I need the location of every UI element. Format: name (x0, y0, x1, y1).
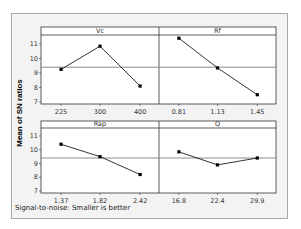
y-tick-label: 9 (34, 160, 38, 168)
x-tick-label: 400 (134, 108, 146, 116)
panel-row-0 (41, 27, 276, 104)
data-point (59, 68, 62, 71)
x-tick-label: 2.42 (133, 197, 147, 205)
data-point (256, 156, 259, 159)
y-tick-label: 7 (34, 187, 38, 195)
panel-title: Rf (214, 27, 222, 35)
y-tick-label: 9 (34, 69, 38, 77)
y-tick-label: 7 (34, 98, 38, 106)
x-tick-label: 1.13 (210, 108, 224, 116)
footnote: Signal-to-noise: Smaller is better (15, 204, 130, 212)
main-effects-chart: 78910117891011Vc225300400Rf0.811.131.45R… (0, 0, 301, 229)
panel-title: Q (215, 120, 220, 128)
data-point (59, 143, 62, 146)
x-tick-label: 225 (55, 108, 67, 116)
x-tick-label: 1.45 (250, 108, 264, 116)
data-point (256, 93, 259, 96)
panels-group: 78910117891011Vc225300400Rf0.811.131.45R… (30, 27, 276, 205)
data-point (216, 163, 219, 166)
y-tick-label: 8 (34, 173, 38, 181)
panel-title: Rap (94, 120, 106, 128)
data-point (139, 173, 142, 176)
data-point (98, 155, 101, 158)
y-axis-label: Mean of SN ratios (15, 79, 24, 147)
data-point (98, 45, 101, 48)
y-tick-label: 8 (34, 84, 38, 92)
x-tick-label: 29.9 (250, 197, 264, 205)
data-point (139, 84, 142, 87)
y-tick-label: 11 (30, 132, 38, 140)
panel-title: Vc (96, 27, 104, 35)
y-tick-label: 10 (30, 146, 38, 154)
x-tick-label: 300 (94, 108, 106, 116)
x-tick-label: 16.8 (172, 197, 186, 205)
x-tick-label: 0.81 (172, 108, 186, 116)
panel-row-1 (41, 121, 276, 193)
data-point (177, 37, 180, 40)
y-tick-label: 11 (30, 40, 38, 48)
y-tick-label: 10 (30, 55, 38, 63)
data-point (216, 66, 219, 69)
x-tick-label: 22.4 (210, 197, 224, 205)
data-point (177, 150, 180, 153)
